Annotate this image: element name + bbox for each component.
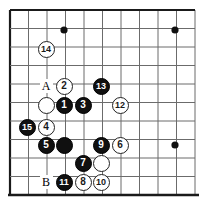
- stone-10: 10: [93, 174, 110, 191]
- stone-6: 6: [112, 137, 129, 154]
- stone-12: 12: [112, 97, 129, 114]
- star-points: [60, 26, 178, 148]
- stone-2-label: 2: [61, 81, 67, 91]
- stone-1: 1: [56, 97, 73, 114]
- stone-7-label: 7: [80, 158, 86, 168]
- stone-14-label: 14: [41, 44, 51, 53]
- stone-5-label: 5: [43, 140, 49, 150]
- stone-7: 7: [75, 155, 92, 172]
- stone-4-label: 4: [43, 122, 49, 132]
- stone-11: 11: [56, 174, 73, 191]
- stone-15: 15: [19, 119, 36, 136]
- stone-white-unnumbered-lower: [93, 155, 110, 172]
- stone-black-unnumbered-center: [56, 137, 73, 154]
- stone-white-unnumbered-upper: [38, 97, 55, 114]
- stone-14: 14: [38, 41, 55, 58]
- stone-4: 4: [38, 119, 55, 136]
- stone-9: 9: [93, 137, 110, 154]
- stone-12-label: 12: [115, 100, 125, 109]
- star-point-bottom-right: [171, 141, 178, 148]
- stone-3: 3: [75, 97, 92, 114]
- stone-10-label: 10: [96, 177, 106, 186]
- stone-11-label: 11: [59, 177, 69, 186]
- stone-1-label: 1: [61, 100, 67, 110]
- star-point-top-left: [60, 26, 67, 33]
- stone-8: 8: [75, 174, 92, 191]
- stone-9-label: 9: [98, 140, 104, 150]
- go-diagram: 142131312154596711810 AB: [0, 0, 202, 212]
- stone-15-label: 15: [22, 122, 32, 131]
- stone-13-label: 13: [96, 81, 106, 90]
- marker-a: A: [40, 79, 53, 93]
- stone-5: 5: [38, 137, 55, 154]
- stone-13: 13: [93, 78, 110, 95]
- stone-3-label: 3: [80, 100, 86, 110]
- stone-6-label: 6: [117, 140, 123, 150]
- marker-b: B: [40, 175, 53, 189]
- stone-8-label: 8: [80, 177, 86, 187]
- star-point-top-right: [171, 26, 178, 33]
- stone-2: 2: [56, 78, 73, 95]
